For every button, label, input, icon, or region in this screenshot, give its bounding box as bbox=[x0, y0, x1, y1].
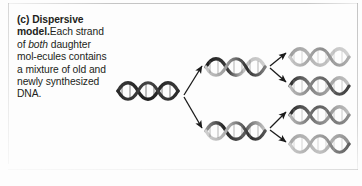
second-generation-dna-helix-4 bbox=[288, 131, 352, 157]
figure-caption: (c) Dispersive model.Each strand of both… bbox=[17, 14, 111, 101]
panel-border-right bbox=[357, 3, 358, 170]
gen1-bottom-helix-graphic bbox=[204, 118, 268, 144]
panel-border-left bbox=[8, 3, 9, 164]
panel-border-top bbox=[8, 3, 358, 4]
arrow-gen1-bottom-to-gen2-3 bbox=[270, 112, 286, 128]
caption-bold-term-2: model. bbox=[17, 26, 50, 37]
caption-italic-term: both bbox=[28, 39, 48, 50]
caption-bold-term-1: Dispersive bbox=[32, 14, 83, 25]
arrow-parent-to-gen1-top bbox=[184, 66, 202, 95]
first-generation-dna-helix-bottom bbox=[204, 118, 268, 144]
second-generation-dna-helix-2 bbox=[288, 73, 352, 99]
gen1-top-helix-graphic bbox=[204, 54, 268, 80]
arrow-parent-to-gen1-bottom bbox=[184, 97, 202, 128]
dispersive-model-figure-panel: (c) Dispersive model.Each strand of both… bbox=[0, 0, 362, 186]
first-generation-dna-helix-top bbox=[204, 54, 268, 80]
arrow-gen1-bottom-to-gen2-4 bbox=[270, 130, 286, 142]
arrow-gen1-top-to-gen2-1 bbox=[270, 53, 286, 66]
arrow-gen1-top-to-gen2-2 bbox=[270, 68, 286, 82]
second-generation-dna-helix-1 bbox=[288, 44, 352, 70]
panel-letter: (c) bbox=[17, 14, 29, 25]
panel-border-bottom bbox=[8, 169, 358, 170]
gen2-helix-3-graphic bbox=[288, 102, 352, 128]
gen2-helix-4-graphic bbox=[288, 131, 352, 157]
second-generation-dna-helix-3 bbox=[288, 102, 352, 128]
gen2-helix-2-graphic bbox=[288, 73, 352, 99]
parent-helix-graphic bbox=[116, 78, 184, 104]
parent-dna-helix bbox=[116, 78, 184, 104]
gen2-helix-1-graphic bbox=[288, 44, 352, 70]
